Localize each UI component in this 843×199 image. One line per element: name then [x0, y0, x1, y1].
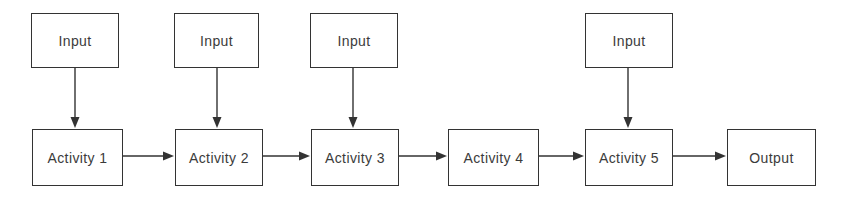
node-input-4[interactable]: Input: [585, 13, 673, 68]
connector-edge-activity4-activity5: [539, 152, 584, 161]
node-label: Input: [200, 34, 233, 48]
node-label: Input: [337, 34, 370, 48]
node-label: Input: [58, 34, 91, 48]
node-output-1[interactable]: Output: [727, 129, 816, 186]
node-label: Activity 4: [463, 151, 523, 165]
connector-edge-activity2-activity3: [263, 152, 310, 161]
node-activity-3[interactable]: Activity 3: [311, 129, 399, 186]
connector-edge-activity3-activity4: [399, 152, 447, 161]
node-activity-5[interactable]: Activity 5: [585, 129, 673, 186]
node-input-1[interactable]: Input: [31, 13, 119, 68]
connector-edge-input3-activity3: [349, 68, 358, 128]
connector-edge-input2-activity2: [213, 68, 222, 128]
connector-edge-input4-activity5: [624, 68, 633, 128]
connector-edge-input1-activity1: [71, 68, 80, 128]
connector-edge-activity1-activity2: [123, 152, 174, 161]
node-activity-4[interactable]: Activity 4: [448, 129, 539, 186]
node-activity-2[interactable]: Activity 2: [175, 129, 263, 186]
node-input-2[interactable]: Input: [174, 13, 259, 68]
node-label: Activity 2: [189, 151, 249, 165]
node-input-3[interactable]: Input: [310, 13, 398, 68]
node-label: Output: [749, 151, 793, 165]
node-label: Activity 5: [599, 151, 659, 165]
flowchart-diagram: Input Input Input Input Activity 1 Activ…: [0, 0, 843, 199]
node-label: Input: [612, 34, 645, 48]
node-label: Activity 3: [325, 151, 385, 165]
connector-edge-activity5-output1: [673, 152, 726, 161]
node-label: Activity 1: [47, 151, 107, 165]
node-activity-1[interactable]: Activity 1: [32, 129, 123, 186]
connector-layer: [0, 0, 843, 199]
